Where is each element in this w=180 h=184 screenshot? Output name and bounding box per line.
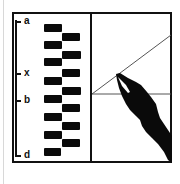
right-panel: [0, 0, 180, 184]
pen-nib-icon: [116, 73, 172, 163]
